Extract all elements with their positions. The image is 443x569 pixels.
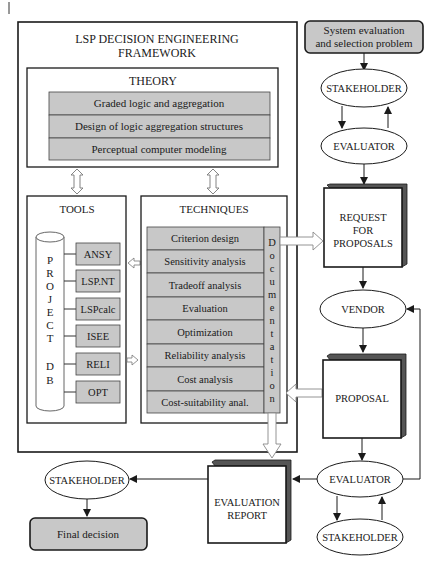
svg-text:n: n bbox=[269, 393, 275, 404]
svg-text:ANSY: ANSY bbox=[84, 249, 113, 260]
svg-text:t: t bbox=[271, 354, 274, 365]
svg-text:REPORT: REPORT bbox=[227, 510, 267, 521]
theory-item-0-label: Graded logic and aggregation bbox=[94, 97, 225, 109]
svg-text:o: o bbox=[269, 380, 274, 391]
tool-item-opt: OPT bbox=[76, 381, 120, 403]
request-for-proposals-box: REQUEST FOR PROPOSALS bbox=[324, 184, 407, 267]
technique-item-cost-suitability: Cost-suitability anal. bbox=[147, 391, 264, 413]
svg-text:Sensitivity analysis: Sensitivity analysis bbox=[164, 256, 245, 267]
svg-text:STAKEHOLDER: STAKEHOLDER bbox=[322, 532, 398, 543]
vendor-ellipse: VENDOR bbox=[320, 290, 406, 328]
svg-text:D: D bbox=[46, 360, 54, 372]
technique-item-tradeoff-analysis: Tradeoff analysis bbox=[147, 273, 264, 297]
svg-text:Evaluation: Evaluation bbox=[182, 303, 228, 314]
evaluator-bottom-ellipse: EVALUATOR bbox=[317, 461, 403, 497]
svg-text:B: B bbox=[46, 374, 53, 386]
stakeholder-bottom-ellipse: STAKEHOLDER bbox=[317, 519, 403, 555]
svg-text:m: m bbox=[268, 289, 276, 300]
svg-text:e: e bbox=[270, 302, 275, 313]
system-evaluation-problem-box: System evaluation and selection problem bbox=[305, 21, 423, 53]
svg-text:REQUEST: REQUEST bbox=[339, 212, 387, 223]
stakeholder-top-ellipse: STAKEHOLDER bbox=[321, 69, 407, 107]
techniques-box: TECHNIQUES Criterion design Sensitivity … bbox=[141, 196, 287, 423]
svg-text:Optimization: Optimization bbox=[177, 327, 233, 338]
svg-text:o: o bbox=[269, 250, 274, 261]
svg-text:EVALUATION: EVALUATION bbox=[214, 497, 280, 508]
svg-text:EVALUATOR: EVALUATOR bbox=[333, 141, 394, 152]
svg-text:T: T bbox=[47, 332, 54, 344]
svg-text:VENDOR: VENDOR bbox=[341, 304, 385, 315]
svg-text:R: R bbox=[46, 267, 54, 279]
svg-text:FOR: FOR bbox=[353, 225, 373, 236]
svg-text:System evaluation: System evaluation bbox=[324, 24, 405, 36]
svg-text:J: J bbox=[48, 293, 53, 305]
svg-text:RELI: RELI bbox=[86, 359, 110, 370]
svg-text:D: D bbox=[268, 237, 276, 248]
svg-text:C: C bbox=[46, 319, 53, 331]
evaluator-top-ellipse: EVALUATOR bbox=[321, 128, 407, 164]
documentation-column: D o c u m e n t a t i o n bbox=[264, 227, 280, 413]
framework-title-line2: FRAMEWORK bbox=[118, 46, 196, 60]
theory-item-1-label: Design of logic aggregation structures bbox=[75, 120, 243, 132]
framework-title-line1: LSP DECISION ENGINEERING bbox=[75, 32, 239, 46]
tools-title: TOOLS bbox=[59, 203, 94, 215]
technique-item-cost-analysis: Cost analysis bbox=[147, 367, 264, 391]
tool-item-ansy: ANSY bbox=[76, 243, 120, 265]
svg-text:Cost analysis: Cost analysis bbox=[177, 374, 233, 385]
technique-item-criterion-design: Criterion design bbox=[147, 227, 264, 250]
proposal-box: PROPOSAL bbox=[323, 354, 406, 438]
svg-text:OPT: OPT bbox=[88, 387, 108, 398]
tool-item-isee: ISEE bbox=[76, 325, 120, 347]
evaluation-report-box: EVALUATION REPORT bbox=[208, 460, 291, 543]
svg-text:E: E bbox=[47, 306, 54, 318]
theory-title: THEORY bbox=[129, 74, 177, 88]
svg-text:O: O bbox=[46, 280, 54, 292]
svg-text:EVALUATOR: EVALUATOR bbox=[329, 474, 390, 485]
tool-item-reli: RELI bbox=[76, 353, 120, 375]
svg-text:i: i bbox=[271, 367, 274, 378]
svg-text:Tradeoff analysis: Tradeoff analysis bbox=[169, 280, 242, 291]
svg-text:STAKEHOLDER: STAKEHOLDER bbox=[49, 475, 125, 486]
svg-text:t: t bbox=[271, 328, 274, 339]
svg-text:c: c bbox=[270, 263, 275, 274]
project-db-label: P R O J E C T D B bbox=[46, 254, 54, 386]
stakeholder-final-ellipse: STAKEHOLDER bbox=[45, 461, 129, 499]
svg-text:Final decision: Final decision bbox=[57, 528, 120, 540]
theory-box: THEORY Graded logic and aggregation Desi… bbox=[27, 68, 278, 167]
tool-item-lspcalc: LSPcalc bbox=[76, 298, 120, 320]
lsp-diagram: LSP DECISION ENGINEERING FRAMEWORK THEOR… bbox=[0, 0, 443, 569]
technique-item-optimization: Optimization bbox=[147, 320, 264, 344]
theory-item-2-label: Perceptual computer modeling bbox=[91, 143, 227, 155]
svg-text:P: P bbox=[47, 254, 53, 266]
svg-text:Criterion design: Criterion design bbox=[171, 233, 240, 244]
technique-item-evaluation: Evaluation bbox=[147, 297, 264, 320]
svg-text:PROPOSAL: PROPOSAL bbox=[335, 393, 389, 404]
techniques-title: TECHNIQUES bbox=[179, 203, 248, 215]
svg-text:Reliability analysis: Reliability analysis bbox=[165, 350, 246, 361]
svg-text:LSPcalc: LSPcalc bbox=[81, 304, 116, 315]
svg-text:and selection problem: and selection problem bbox=[315, 37, 413, 49]
svg-text:ISEE: ISEE bbox=[87, 331, 109, 342]
technique-item-reliability-analysis: Reliability analysis bbox=[147, 344, 264, 367]
tool-item-lspnt: LSP.NT bbox=[76, 270, 120, 292]
svg-text:Cost-suitability anal.: Cost-suitability anal. bbox=[161, 397, 249, 408]
svg-text:PROPOSALS: PROPOSALS bbox=[333, 238, 393, 249]
svg-text:STAKEHOLDER: STAKEHOLDER bbox=[326, 83, 402, 94]
svg-text:n: n bbox=[269, 315, 275, 326]
tools-box: TOOLS P R O J E C T D B bbox=[27, 196, 126, 423]
svg-text:LSP.NT: LSP.NT bbox=[81, 276, 115, 287]
technique-item-sensitivity-analysis: Sensitivity analysis bbox=[147, 250, 264, 273]
svg-text:a: a bbox=[270, 341, 275, 352]
svg-text:u: u bbox=[269, 276, 275, 287]
final-decision-box: Final decision bbox=[30, 518, 147, 550]
